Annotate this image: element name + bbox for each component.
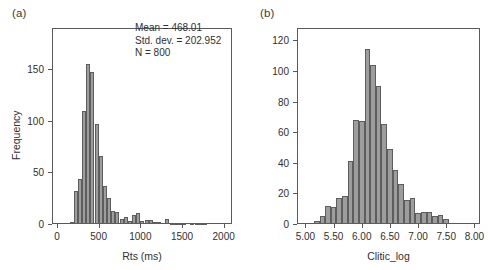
x-tick-label: 1500 [171, 231, 193, 242]
x-tick-mark [390, 224, 391, 228]
figure-histograms: (a) Mean = 468.01 Std. dev. = 202.952 N … [0, 0, 496, 270]
histogram-bar [203, 223, 207, 225]
y-tick-label: 40 [255, 157, 289, 168]
y-tick-mark [293, 132, 297, 133]
x-tick-label: 5.50 [324, 231, 343, 242]
y-tick-label: 60 [255, 127, 289, 138]
x-tick-label: 500 [90, 231, 107, 242]
x-tick-mark [362, 224, 363, 228]
y-tick-mark [48, 121, 52, 122]
y-tick-mark [293, 163, 297, 164]
y-tick-label: 0 [255, 219, 289, 230]
panel-b: (b) Mean = 6.08 Std. dev.= 0.346 N = 800… [248, 0, 496, 270]
x-tick-mark [474, 224, 475, 228]
x-tick-label: 5.00 [296, 231, 315, 242]
x-tick-mark [99, 224, 100, 228]
x-tick-mark [334, 224, 335, 228]
x-tick-label: 6.00 [352, 231, 371, 242]
y-tick-label: 0 [10, 219, 44, 230]
y-tick-label: 150 [10, 64, 44, 75]
x-tick-label: 7.50 [436, 231, 455, 242]
panel-a: (a) Mean = 468.01 Std. dev. = 202.952 N … [0, 0, 248, 270]
x-tick-label: 6.50 [380, 231, 399, 242]
histogram-bar [157, 222, 161, 224]
x-tick-label: 8.00 [465, 231, 484, 242]
y-tick-mark [48, 224, 52, 225]
y-tick-mark [293, 102, 297, 103]
y-tick-label: 20 [255, 188, 289, 199]
x-tick-mark [57, 224, 58, 228]
y-tick-mark [293, 193, 297, 194]
x-tick-mark [305, 224, 306, 228]
y-tick-label: 80 [255, 96, 289, 107]
histogram-bars-a [0, 0, 248, 270]
x-tick-mark [140, 224, 141, 228]
y-tick-label: 100 [10, 115, 44, 126]
y-tick-mark [48, 69, 52, 70]
y-tick-label: 120 [255, 35, 289, 46]
y-tick-mark [48, 172, 52, 173]
x-tick-mark [224, 224, 225, 228]
x-tick-label: 0 [54, 231, 60, 242]
x-tick-label: 2000 [213, 231, 235, 242]
x-tick-mark [446, 224, 447, 228]
y-tick-mark [293, 40, 297, 41]
y-tick-mark [293, 224, 297, 225]
x-tick-mark [418, 224, 419, 228]
x-tick-label: 7.00 [408, 231, 427, 242]
x-tick-label: 1000 [129, 231, 151, 242]
y-tick-label: 50 [10, 167, 44, 178]
y-tick-label: 100 [255, 65, 289, 76]
y-tick-mark [293, 71, 297, 72]
x-tick-mark [182, 224, 183, 228]
